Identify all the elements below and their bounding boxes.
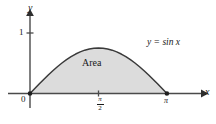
x-axis-label: x: [205, 87, 209, 97]
pi-over-2-numerator: π: [93, 96, 107, 103]
shaded-area-region: [30, 48, 167, 94]
curve-endpoint-marker-origin: [28, 91, 33, 96]
y-tick-label-one: 1: [19, 28, 24, 37]
x-tick-label-pi-over-2: π 2: [93, 96, 107, 112]
area-region-label: Area: [82, 58, 101, 68]
y-axis-label: y: [28, 3, 32, 13]
pi-over-2-denominator: 2: [93, 105, 107, 112]
curve-equation-label: y = sin x: [147, 38, 180, 48]
x-tick-label-pi: π: [164, 97, 168, 105]
origin-label: 0: [21, 95, 26, 104]
sine-area-figure: y x 1 0 π π 2 y = sin x Area: [0, 0, 216, 124]
plot-canvas: [0, 0, 216, 124]
